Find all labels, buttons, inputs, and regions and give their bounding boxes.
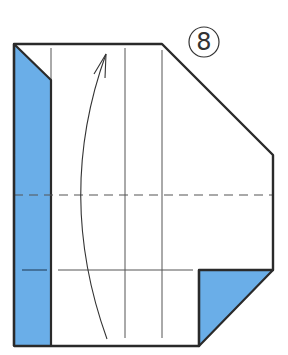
- step-number-label: 8: [189, 27, 219, 57]
- origami-diagram: 8: [0, 0, 288, 355]
- bottom-right-colored-triangle: [199, 270, 273, 346]
- diagram-canvas: [0, 0, 288, 355]
